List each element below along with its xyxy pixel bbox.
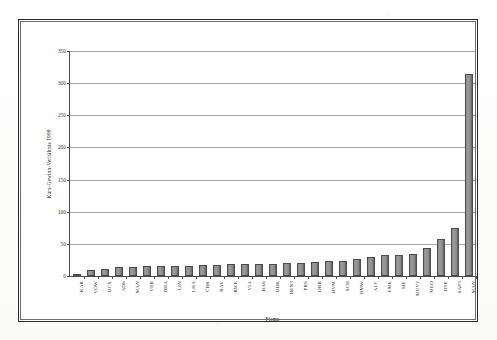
- x-tick-mark: [238, 276, 239, 279]
- y-tick-label: 300: [58, 80, 66, 86]
- x-tick-mark: [462, 276, 463, 279]
- bar: [311, 262, 319, 276]
- x-tick-mark: [140, 276, 141, 279]
- x-tick-mark: [322, 276, 323, 279]
- x-tick-label: SAP3: [457, 281, 462, 293]
- x-tick-label: DRB: [317, 281, 322, 292]
- x-tick-mark: [126, 276, 127, 279]
- bar: [451, 228, 459, 276]
- x-tick-mark: [406, 276, 407, 279]
- bar: [157, 266, 165, 276]
- bar: [87, 270, 95, 276]
- x-tick-mark: [252, 276, 253, 279]
- bar: [283, 263, 291, 276]
- y-tick-label: 0: [63, 273, 66, 279]
- plot-area: 050100150200250300350 KARVOWDCXADSMANVEB…: [69, 51, 476, 277]
- bar: [409, 254, 417, 277]
- bar: [185, 266, 193, 276]
- x-tick-mark: [210, 276, 211, 279]
- x-tick-mark: [294, 276, 295, 279]
- x-tick-mark: [364, 276, 365, 279]
- bar: [395, 255, 403, 276]
- x-tick-mark: [98, 276, 99, 279]
- x-tick-label: SIE: [401, 281, 406, 289]
- bar: [73, 274, 81, 276]
- bar: [241, 264, 249, 276]
- bar: [129, 267, 137, 276]
- x-tick-label: VOW: [93, 281, 98, 294]
- x-tick-mark: [448, 276, 449, 279]
- x-tick-label: SCH: [345, 281, 350, 291]
- chart-frame: Kurs-Gewinn-Verhältnis 1999 050100150200…: [18, 19, 478, 322]
- x-tick-label: BAS: [261, 281, 266, 291]
- x-tick-mark: [378, 276, 379, 279]
- x-tick-mark: [476, 276, 477, 279]
- bar: [437, 239, 445, 276]
- x-tick-mark: [336, 276, 337, 279]
- bar: [353, 259, 361, 276]
- bar: [297, 263, 305, 277]
- x-tick-mark: [112, 276, 113, 279]
- bar: [339, 261, 347, 276]
- x-tick-label: BAY: [219, 281, 224, 292]
- y-axis-title: Kurs-Gewinn-Verhältnis 1999: [43, 51, 54, 277]
- x-tick-label: BMW: [359, 281, 364, 294]
- x-tick-label: ADS: [121, 281, 126, 292]
- y-tick-label: 200: [58, 144, 66, 150]
- x-tick-label: LHA: [191, 281, 196, 292]
- x-tick-mark: [392, 276, 393, 279]
- x-tick-mark: [84, 276, 85, 279]
- x-tick-label: DTE: [443, 281, 448, 291]
- x-tick-mark: [350, 276, 351, 279]
- x-tick-mark: [168, 276, 169, 279]
- x-tick-mark: [154, 276, 155, 279]
- x-tick-mark: [266, 276, 267, 279]
- bar: [381, 255, 389, 276]
- y-tick-mark: [67, 276, 70, 277]
- x-tick-label: VEB: [149, 281, 154, 292]
- x-tick-label: MAN: [135, 281, 140, 293]
- x-tick-mark: [224, 276, 225, 279]
- bar: [269, 264, 277, 276]
- bar: [143, 266, 151, 276]
- x-tick-mark: [420, 276, 421, 279]
- bar: [367, 257, 375, 276]
- x-tick-mark: [308, 276, 309, 279]
- x-tick-mark: [280, 276, 281, 279]
- x-tick-label: RWE: [233, 281, 238, 292]
- bar: [199, 265, 207, 276]
- x-tick-mark: [196, 276, 197, 279]
- bar: [213, 265, 221, 276]
- bar: [171, 266, 179, 276]
- bar: [325, 261, 333, 276]
- x-tick-label: CBK: [205, 281, 210, 292]
- bar: [115, 267, 123, 276]
- x-tick-label: MEO: [429, 281, 434, 293]
- y-tick-label: 100: [58, 209, 66, 215]
- bar: [101, 269, 109, 276]
- x-tick-label: FME: [387, 281, 392, 292]
- y-axis-title-label: Kurs-Gewinn-Verhältnis 1999: [46, 129, 52, 198]
- x-tick-label: ALV: [373, 281, 378, 291]
- x-tick-label: DHA: [163, 281, 168, 292]
- x-tick-label: HVM: [331, 281, 336, 293]
- x-tick-label: VIA: [247, 281, 252, 291]
- bar: [465, 74, 473, 277]
- y-tick-label: 350: [58, 48, 66, 54]
- bar-series: [70, 51, 476, 276]
- x-tick-mark: [434, 276, 435, 279]
- bar: [255, 264, 263, 276]
- x-axis-title: Firma: [69, 316, 476, 322]
- y-tick-label: 150: [58, 177, 66, 183]
- x-tick-label: LIN: [177, 281, 182, 290]
- y-tick-label: 250: [58, 112, 66, 118]
- x-tick-label: MAN: [471, 281, 476, 293]
- x-tick-label: KAR: [79, 281, 84, 292]
- bar: [227, 264, 235, 276]
- x-tick-mark: [182, 276, 183, 279]
- y-tick-label: 50: [61, 241, 66, 247]
- bar: [423, 248, 431, 276]
- x-tick-label: MUV2: [415, 281, 420, 296]
- x-tick-label: PRS: [303, 281, 308, 291]
- x-tick-label: DBK: [275, 281, 280, 292]
